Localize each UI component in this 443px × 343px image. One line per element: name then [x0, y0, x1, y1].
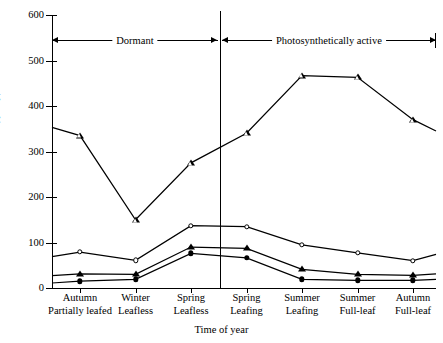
- phase-bracket-end-cap: [52, 33, 53, 48]
- x-axis-category-line: Autumn: [395, 292, 431, 305]
- data-point-marker: [409, 116, 417, 122]
- x-axis-category-line: Winter: [118, 292, 153, 305]
- phase-bracket-label: Dormant: [112, 33, 157, 48]
- x-axis-category-label: SummerLeafing: [284, 292, 320, 317]
- data-point-marker: [298, 72, 306, 78]
- season-divider-line: [220, 14, 221, 289]
- x-axis-category-line: Spring: [230, 292, 263, 305]
- y-axis-tick-label: 400: [28, 101, 44, 112]
- y-axis-tick-label: 600: [28, 10, 44, 21]
- x-axis-category-line: Summer: [339, 292, 375, 305]
- data-point-marker: [187, 159, 195, 165]
- data-point-marker: [76, 132, 84, 138]
- x-axis-category-line: Spring: [174, 292, 209, 305]
- y-axis-tick-label: 200: [28, 192, 44, 203]
- x-axis-category-line: Leafless: [118, 305, 153, 318]
- data-point-marker: [298, 266, 306, 272]
- x-axis-title: Time of year: [0, 324, 443, 335]
- x-axis-category-label: AutumnPartially leafed: [48, 292, 112, 317]
- x-axis-category-line: Autumn: [48, 292, 112, 305]
- data-point-marker: [354, 271, 362, 277]
- data-point-marker: [76, 270, 84, 276]
- chart-figure: Radiation (ly/day) 0100200300400500600 D…: [0, 0, 443, 343]
- series-line: [52, 76, 436, 220]
- phase-annotations: DormantPhotosynthetically active: [52, 33, 436, 49]
- x-axis-category-line: Leafing: [284, 305, 320, 318]
- phase-bracket-end-cap: [435, 33, 436, 48]
- data-point-marker: [243, 130, 251, 136]
- phase-bracket-arrow-right: [211, 37, 217, 43]
- x-axis-category-line: Full-leaf: [339, 305, 375, 318]
- y-axis-tick-label: 100: [28, 237, 44, 248]
- x-axis-category-line: Full-leaf: [395, 305, 431, 318]
- series-line: [52, 247, 436, 276]
- plot-area: 0100200300400500600: [52, 15, 436, 288]
- x-axis-category-label: SpringLeafing: [230, 292, 263, 317]
- x-axis-category-label: WinterLeafless: [118, 292, 153, 317]
- y-axis-tick-inner: [52, 288, 57, 289]
- y-axis-tick-label: 0: [39, 283, 44, 294]
- data-point-marker: [354, 74, 362, 80]
- data-point-marker: [243, 245, 251, 251]
- y-axis-tick-label: 300: [28, 146, 44, 157]
- data-point-marker: [132, 216, 140, 222]
- phase-bracket-label: Photosynthetically active: [272, 33, 386, 48]
- phase-bracket-arrow-left: [222, 37, 228, 43]
- x-axis-category-line: Leafless: [174, 305, 209, 318]
- x-axis-category-label: SummerFull-leaf: [339, 292, 375, 317]
- x-axis-category-label: AutumnFull-leaf: [395, 292, 431, 317]
- y-axis-tick-label: 500: [28, 55, 44, 66]
- x-axis-category-line: Partially leafed: [48, 305, 112, 318]
- x-axis-category-line: Summer: [284, 292, 320, 305]
- x-axis-category-label: SpringLeafless: [174, 292, 209, 317]
- x-axis-category-line: Leafing: [230, 305, 263, 318]
- data-point-marker: [187, 244, 195, 250]
- season-divider-extension: [220, 11, 221, 15]
